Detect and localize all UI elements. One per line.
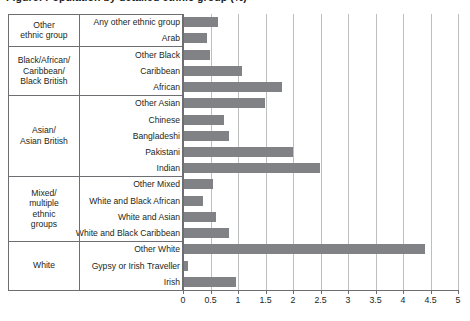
bar: [184, 196, 203, 206]
group-separator: [8, 46, 183, 47]
category-label: Caribbean: [80, 62, 183, 79]
category-label: Arab: [80, 30, 183, 47]
bar: [184, 212, 216, 222]
ethnic-group-label: Mixed/multipleethnicgroups: [29, 188, 59, 230]
x-axis-tick-label: 5: [456, 295, 461, 305]
bar: [184, 228, 229, 238]
ethnic-group-label: Asian/Asian British: [20, 125, 68, 146]
gridline-5: [458, 14, 459, 290]
x-axis-tick: [458, 290, 459, 294]
category-label: Bangladeshi: [80, 127, 183, 144]
x-axis-tick: [266, 290, 267, 294]
category-label: Other White: [80, 241, 183, 258]
category-label: Gypsy or Irish Traveller: [80, 257, 183, 274]
x-axis-tick-label: 3: [346, 295, 351, 305]
x-axis-tick: [238, 290, 239, 294]
x-axis-tick-label: 1: [236, 295, 241, 305]
x-axis-tick-label: 3.5: [369, 295, 381, 305]
category-label: Other Mixed: [80, 176, 183, 193]
ethnic-group-label: Black/African/Caribbean/Black British: [18, 55, 71, 86]
group-separator: [8, 14, 183, 15]
bar: [184, 98, 265, 108]
x-axis-tick-label: 1.5: [259, 295, 271, 305]
ethnic-group-label: White: [33, 260, 55, 270]
x-axis-tick: [376, 290, 377, 294]
plot-area: [183, 14, 458, 290]
group-separator: [8, 290, 183, 291]
x-axis-tick: [348, 290, 349, 294]
bar: [184, 244, 425, 254]
bar: [184, 66, 242, 76]
x-axis-tick: [211, 290, 212, 294]
gridline-4.5: [431, 14, 432, 290]
category-label: Other Asian: [80, 95, 183, 112]
x-axis-tick: [321, 290, 322, 294]
bar: [184, 147, 293, 157]
x-axis-tick: [293, 290, 294, 294]
bar: [184, 163, 320, 173]
bar: [184, 50, 210, 60]
category-label: White and Black African: [80, 192, 183, 209]
category-label: Any other ethnic group: [80, 14, 183, 31]
bar: [184, 115, 224, 125]
bar: [184, 261, 188, 271]
ethnic-group-cell: Otherethnic group: [8, 14, 80, 46]
x-axis-tick-label: 2.5: [314, 295, 326, 305]
ethnic-group-label: Otherethnic group: [20, 20, 67, 41]
category-label: African: [80, 78, 183, 95]
ethnic-group-column: Otherethnic groupBlack/African/Caribbean…: [8, 14, 80, 290]
bar: [184, 277, 236, 287]
group-separator: [8, 95, 183, 96]
bar-chart: Figure: Population by detailed ethnic gr…: [0, 0, 470, 321]
x-axis-tick: [183, 290, 184, 294]
x-axis-tick-label: 0: [181, 295, 186, 305]
group-separator: [8, 176, 183, 177]
group-column-divider: [79, 46, 80, 95]
group-separator: [8, 241, 183, 242]
group-column-divider: [79, 176, 80, 241]
category-label: Other Black: [80, 46, 183, 63]
category-label: White and Black Caribbean: [80, 225, 183, 242]
group-column-divider: [79, 95, 80, 176]
ethnic-group-cell: White: [8, 241, 80, 290]
category-label: Indian: [80, 160, 183, 177]
x-axis-tick-label: 4: [401, 295, 406, 305]
category-label: White and Asian: [80, 208, 183, 225]
bar: [184, 131, 229, 141]
category-label-column: Any other ethnic groupArabOther BlackCar…: [80, 14, 183, 290]
x-axis-tick: [403, 290, 404, 294]
x-axis-tick-label: 2: [291, 295, 296, 305]
bar: [184, 82, 282, 92]
category-label: Irish: [80, 273, 183, 290]
bar: [184, 179, 213, 189]
bar: [184, 17, 218, 27]
x-axis-tick-label: 0.5: [204, 295, 216, 305]
category-label: Pakistani: [80, 143, 183, 160]
x-axis-tick-label: 4.5: [424, 295, 436, 305]
ethnic-group-cell: Mixed/multipleethnicgroups: [8, 176, 80, 241]
bar: [184, 33, 207, 43]
ethnic-group-cell: Black/African/Caribbean/Black British: [8, 46, 80, 95]
group-column-divider: [79, 14, 80, 46]
chart-title: Figure: Population by detailed ethnic gr…: [6, 0, 247, 3]
category-label: Chinese: [80, 111, 183, 128]
x-axis-tick: [431, 290, 432, 294]
group-column-divider: [79, 241, 80, 290]
ethnic-group-cell: Asian/Asian British: [8, 95, 80, 176]
